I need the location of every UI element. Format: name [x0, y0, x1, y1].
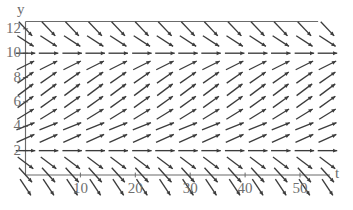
field-arrow	[41, 96, 57, 107]
field-arrow	[110, 72, 126, 83]
x-axis-label: t	[335, 166, 339, 181]
y-tick-label: 2	[0, 143, 21, 158]
plot-canvas	[0, 0, 353, 210]
field-arrow	[109, 134, 127, 142]
field-arrow	[248, 149, 267, 153]
arrow-head	[333, 51, 337, 55]
field-arrow	[157, 36, 173, 47]
field-arrow	[85, 51, 105, 55]
field-arrow	[64, 109, 81, 119]
field-arrow	[296, 72, 312, 83]
field-arrow	[85, 149, 105, 153]
field-arrow	[250, 96, 266, 107]
arrow-head	[217, 51, 221, 55]
arrow-head	[286, 51, 290, 55]
field-arrow	[155, 51, 175, 55]
field-arrow	[249, 109, 266, 119]
field-arrow	[134, 84, 150, 96]
field-arrow	[42, 22, 55, 36]
field-arrow	[226, 109, 243, 119]
field-arrow	[273, 36, 289, 47]
field-arrow	[132, 149, 152, 153]
field-arrow	[295, 51, 315, 55]
field-arrow	[226, 36, 242, 47]
field-arrow	[203, 84, 219, 96]
arrow-head	[263, 51, 267, 55]
field-arrow	[65, 22, 78, 36]
field-arrow	[87, 157, 103, 169]
field-arrow	[321, 22, 334, 36]
field-arrow	[156, 61, 173, 70]
field-arrow	[63, 122, 81, 130]
field-arrow	[275, 179, 286, 195]
field-arrow	[319, 109, 336, 119]
field-arrow	[181, 22, 194, 36]
field-arrow	[272, 122, 290, 130]
arrow-head	[78, 149, 82, 153]
field-arrow	[110, 36, 126, 47]
field-arrow	[87, 84, 103, 96]
arrow-head	[286, 149, 290, 153]
field-arrow	[41, 84, 57, 96]
arrow-head	[147, 51, 151, 55]
x-tick-label: 50	[286, 181, 314, 196]
field-arrow	[296, 36, 312, 47]
field-arrow	[63, 61, 80, 70]
slope-field-figure: y t 24681012 1020304050	[0, 0, 353, 210]
y-tick-label: 12	[0, 21, 21, 36]
field-arrow	[64, 96, 80, 107]
field-arrow	[202, 122, 220, 130]
field-arrow	[134, 36, 150, 47]
field-arrow	[157, 109, 174, 119]
y-axis-label: y	[17, 2, 25, 17]
field-arrow	[228, 22, 241, 36]
field-arrow	[203, 72, 219, 83]
field-arrow	[180, 157, 196, 169]
field-arrow	[62, 51, 82, 55]
field-arrow	[155, 149, 175, 153]
field-arrow	[180, 96, 196, 107]
field-arrow	[110, 96, 126, 107]
field-arrow	[201, 51, 221, 55]
field-arrow	[41, 72, 57, 83]
y-tick-label: 10	[0, 45, 21, 60]
arrow-head	[240, 149, 244, 153]
field-arrow	[248, 51, 267, 55]
field-arrow	[179, 61, 196, 70]
field-arrow	[295, 149, 315, 153]
arrow-head	[124, 51, 128, 55]
field-arrow	[87, 96, 103, 107]
field-arrow	[64, 84, 80, 96]
field-arrow	[135, 22, 148, 36]
field-arrow	[272, 61, 289, 70]
arrow-head	[217, 149, 221, 153]
field-arrow	[160, 179, 171, 195]
field-arrow	[156, 122, 174, 130]
field-arrow	[40, 36, 56, 47]
x-tick-label: 10	[66, 181, 94, 196]
arrow-head	[194, 51, 198, 55]
field-arrow	[204, 22, 217, 36]
field-arrow	[62, 149, 82, 153]
field-arrow	[203, 157, 219, 169]
field-arrow	[225, 51, 245, 55]
arrow-head	[194, 149, 198, 153]
field-arrow	[203, 36, 219, 47]
field-arrow	[180, 109, 197, 119]
field-arrow	[20, 179, 31, 195]
field-arrow	[227, 72, 243, 83]
field-arrow	[250, 84, 266, 96]
field-arrow	[40, 61, 57, 70]
arrow-head	[31, 149, 35, 153]
arrow-head	[310, 51, 314, 55]
field-arrow	[295, 122, 313, 130]
field-arrow	[273, 157, 289, 169]
field-arrow	[227, 157, 243, 169]
field-arrow	[297, 157, 313, 169]
field-arrow	[249, 122, 267, 130]
field-arrow	[110, 109, 127, 119]
field-arrow	[273, 72, 289, 83]
field-arrow	[250, 72, 266, 83]
field-arrow	[64, 72, 80, 83]
x-tick-label: 30	[176, 181, 204, 196]
